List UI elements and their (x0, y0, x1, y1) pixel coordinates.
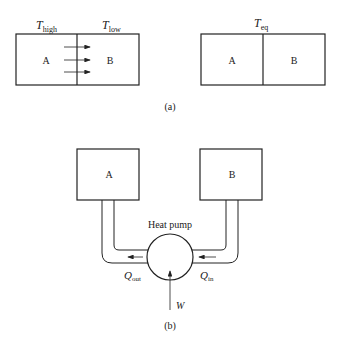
pipe-in-outer (192, 200, 238, 263)
q-out-label: Qout (124, 269, 141, 283)
q-in-label: Qin (200, 269, 214, 283)
t-high-label: Thigh (36, 18, 57, 34)
pipe-out-inner (114, 200, 148, 250)
box-b-label: B (291, 55, 298, 66)
t-low-label: Tlow (102, 18, 121, 34)
box-a-label: A (42, 55, 50, 66)
heat-pump-label: Heat pump (148, 219, 192, 230)
panel-a-left: Thigh Tlow A B (16, 18, 139, 85)
panel-b: A B Heat pump Qout Qin W (77, 149, 262, 311)
box-a-label: A (105, 169, 113, 180)
panel-a-right: Teq A B (201, 16, 325, 85)
work-label: W (176, 300, 186, 311)
pipe-out-outer (102, 200, 148, 263)
diagram-canvas: Thigh Tlow A B Teq A B (a) A B Heat pump… (0, 0, 339, 344)
caption-a: (a) (164, 101, 175, 113)
box-a-label: A (228, 55, 236, 66)
box-b-label: B (107, 55, 114, 66)
pipe-in-inner (192, 200, 226, 250)
t-eq-label: Teq (254, 16, 268, 32)
box-b-label: B (229, 169, 236, 180)
caption-b: (b) (164, 320, 176, 332)
